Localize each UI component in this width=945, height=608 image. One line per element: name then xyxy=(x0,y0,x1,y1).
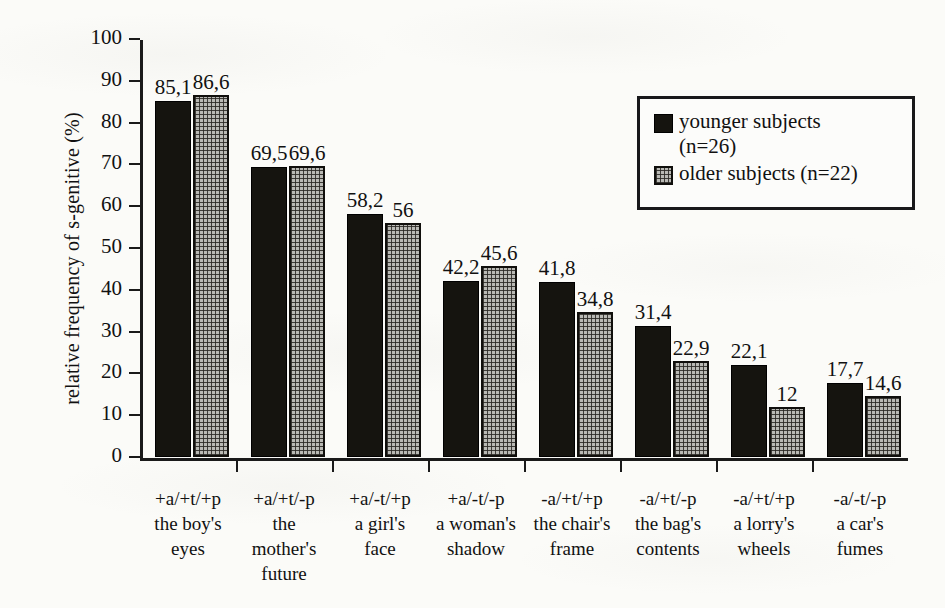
y-tick: 10 xyxy=(129,414,140,416)
chart-legend: younger subjects (n=26) older subjects (… xyxy=(637,96,915,210)
bar-older: 69,6 xyxy=(289,166,325,457)
y-tick-label: 60 xyxy=(101,193,122,215)
y-axis-title: relative frequency of s-genitive (%) xyxy=(61,49,84,469)
bar-younger: 69,5 xyxy=(251,167,287,458)
bar-older: 45,6 xyxy=(481,266,517,457)
bar-value-label: 69,5 xyxy=(251,142,288,164)
bar-group: 58,256 xyxy=(347,39,421,457)
bar-value-label: 42,2 xyxy=(443,256,480,278)
bar-older: 12 xyxy=(769,407,805,457)
x-tick xyxy=(428,461,430,472)
y-tick-label: 80 xyxy=(101,110,122,132)
bar-older: 56 xyxy=(385,223,421,457)
bar-value-label: 31,4 xyxy=(635,301,672,323)
bar-older: 22,9 xyxy=(673,361,709,457)
bar-group: 69,569,6 xyxy=(251,39,325,457)
legend-swatch-older-icon xyxy=(654,166,673,185)
bar-younger: 42,2 xyxy=(443,281,479,457)
legend-swatch-younger-icon xyxy=(654,114,673,133)
y-tick-label: 90 xyxy=(101,68,122,90)
x-category-example-line: fumes xyxy=(804,536,916,561)
y-tick: 70 xyxy=(129,163,140,165)
bar-value-label: 34,8 xyxy=(577,288,614,310)
y-tick-label: 30 xyxy=(101,319,122,341)
y-tick-label: 10 xyxy=(101,402,122,424)
y-tick-label: 70 xyxy=(101,151,122,173)
legend-label-younger-line2: (n=26) xyxy=(679,134,736,158)
bar-value-label: 69,6 xyxy=(289,142,326,164)
x-tick xyxy=(620,461,622,472)
x-tick xyxy=(236,461,238,472)
legend-label-younger-line1: younger subjects xyxy=(679,109,821,133)
y-tick: 0 xyxy=(129,456,140,458)
x-category-code: -a/-t/-p xyxy=(804,486,916,511)
y-axis-line xyxy=(140,40,143,461)
y-tick-label: 0 xyxy=(112,444,123,466)
bar-value-label: 22,9 xyxy=(673,337,710,359)
y-tick: 50 xyxy=(129,247,140,249)
x-category-label: -a/-t/-pa car'sfumes xyxy=(804,486,916,561)
bar-value-label: 58,2 xyxy=(347,189,384,211)
y-tick: 90 xyxy=(129,80,140,82)
bar-older: 14,6 xyxy=(865,396,901,457)
y-tick-label: 20 xyxy=(101,360,122,382)
x-tick xyxy=(716,461,718,472)
y-tick-label: 40 xyxy=(101,277,122,299)
bar-older: 86,6 xyxy=(193,95,229,457)
bar-value-label: 41,8 xyxy=(539,257,576,279)
legend-label-older: older subjects (n=22) xyxy=(679,161,858,186)
x-tick xyxy=(812,461,814,472)
bar-group: 85,186,6 xyxy=(155,39,229,457)
legend-item-older: older subjects (n=22) xyxy=(654,161,912,186)
bar-value-label: 14,6 xyxy=(865,372,902,394)
y-tick: 80 xyxy=(129,122,140,124)
y-tick-label: 100 xyxy=(91,26,123,48)
y-tick: 100 xyxy=(129,38,140,40)
bar-group: 42,245,6 xyxy=(443,39,517,457)
bar-younger: 41,8 xyxy=(539,282,575,457)
bar-younger: 85,1 xyxy=(155,101,191,457)
bar-younger: 17,7 xyxy=(827,383,863,457)
y-tick-label: 50 xyxy=(101,235,122,257)
bar-younger: 22,1 xyxy=(731,365,767,457)
bar-value-label: 85,1 xyxy=(155,76,192,98)
bar-younger: 31,4 xyxy=(635,326,671,457)
bar-group: 41,834,8 xyxy=(539,39,613,457)
y-tick: 60 xyxy=(129,205,140,207)
bar-value-label: 56 xyxy=(393,199,414,221)
bar-value-label: 86,6 xyxy=(193,71,230,93)
bar-older: 34,8 xyxy=(577,312,613,457)
y-tick: 40 xyxy=(129,289,140,291)
bar-value-label: 12 xyxy=(777,383,798,405)
legend-item-younger: younger subjects (n=26) xyxy=(654,109,912,159)
y-tick: 30 xyxy=(129,331,140,333)
x-tick xyxy=(332,461,334,472)
y-tick: 20 xyxy=(129,372,140,374)
bar-value-label: 22,1 xyxy=(731,340,768,362)
x-tick xyxy=(524,461,526,472)
bar-younger: 58,2 xyxy=(347,214,383,457)
x-category-example-line: a car's xyxy=(804,511,916,536)
bar-value-label: 17,7 xyxy=(827,358,864,380)
x-category-example-line: future xyxy=(228,561,340,586)
bar-value-label: 45,6 xyxy=(481,242,518,264)
legend-label-younger: younger subjects (n=26) xyxy=(679,109,821,159)
chart-page: relative frequency of s-genitive (%) 010… xyxy=(0,0,945,608)
